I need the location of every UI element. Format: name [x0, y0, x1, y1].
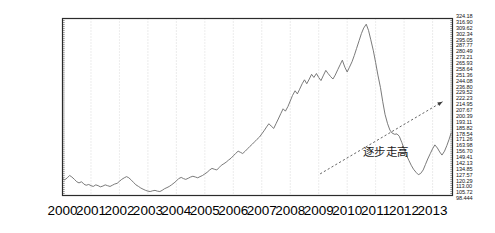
x-tick-label-2011: 2011	[361, 203, 390, 219]
chart-container: 324.18316.90309.62302.34295.05287.77280.…	[0, 0, 495, 233]
x-axis-tick-labels: 2000200120022003200420052006200720082009…	[0, 203, 495, 225]
x-tick-label-2010: 2010	[332, 203, 362, 219]
x-tick-label-2000: 2000	[47, 203, 77, 219]
plot-frame-border	[63, 19, 453, 196]
y-tick-label: 98.444	[456, 196, 473, 202]
trend-arrow-line	[320, 102, 442, 174]
gridlines	[91, 19, 433, 196]
data-series-line	[63, 24, 452, 191]
x-tick-label-2009: 2009	[304, 203, 334, 219]
x-tick-label-2005: 2005	[190, 203, 220, 219]
y-axis-tick-labels: 324.18316.90309.62302.34295.05287.77280.…	[456, 14, 495, 202]
trend-annotation-label: 逐步走高	[363, 146, 409, 159]
x-tick-label-2013: 2013	[418, 203, 448, 219]
x-tick-label-2004: 2004	[161, 203, 191, 219]
x-tick-label-2003: 2003	[133, 203, 163, 219]
x-tick-label-2006: 2006	[218, 203, 248, 219]
x-tick-label-2012: 2012	[389, 203, 419, 219]
x-tick-label-2002: 2002	[104, 203, 134, 219]
trend-arrow-annotation	[320, 102, 442, 174]
x-tick-label-2001: 2001	[76, 203, 106, 219]
x-tick-label-2007: 2007	[247, 203, 277, 219]
chart-plot-svg	[0, 0, 495, 233]
x-tick-label-2008: 2008	[275, 203, 305, 219]
trend-arrowhead-icon	[437, 102, 442, 106]
